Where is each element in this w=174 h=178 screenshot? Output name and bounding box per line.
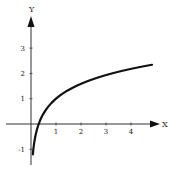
- x-axis-label: X: [162, 120, 168, 129]
- x-tick-label: 1: [54, 128, 58, 136]
- x-tick-label: 2: [79, 128, 83, 136]
- x-tick-label: 4: [129, 128, 134, 136]
- log-curve: [33, 65, 152, 155]
- y-tick-label: 2: [21, 70, 25, 78]
- x-ticks: 1234: [54, 123, 134, 137]
- x-tick-label: 3: [104, 128, 108, 136]
- log-curve-chart: X Y 1234 -1123: [0, 0, 174, 178]
- y-axis-label: Y: [28, 5, 35, 14]
- y-tick-label: -1: [18, 146, 25, 154]
- y-ticks: -1123: [18, 45, 32, 154]
- y-tick-label: 3: [21, 45, 25, 53]
- y-axis-arrow-icon: [28, 16, 35, 27]
- axes: X Y: [6, 5, 168, 165]
- y-tick-label: 1: [21, 95, 25, 103]
- x-axis-arrow-icon: [150, 121, 160, 128]
